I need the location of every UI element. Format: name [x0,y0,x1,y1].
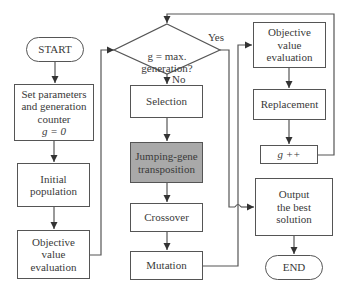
edge-decision-output [220,50,235,207]
replacement-node: Replacement [253,89,326,120]
edge-mutation-objective [203,45,252,266]
jumping-gene-label: Jumping-gene transposition [135,150,197,175]
flowchart: g = max. generation? Yes No START Set pa… [0,0,350,293]
edge-label-yes: Yes [208,31,224,43]
decision-text: g = max. generation? [141,50,192,75]
jumping-gene-node: Jumping-gene transposition [130,142,203,183]
set-parameters-label: Set parameters and generation counter [21,88,86,126]
initial-population-label: Initial population [30,173,77,198]
crossover-label: Crossover [144,211,189,224]
end-label: END [283,261,306,274]
objective-evaluation-initial-label: Objective value evaluation [31,236,77,274]
end-node: END [265,255,323,280]
objective-evaluation-loop-node: Objective value evaluation [253,22,326,68]
mutation-node: Mutation [130,251,203,280]
output-node: Output the best solution [255,178,333,236]
mutation-label: Mutation [146,259,186,272]
set-parameters-node: Set parameters and generation counter g … [14,84,94,141]
crossover-node: Crossover [130,203,203,232]
start-label: START [38,43,71,56]
edge-label-no: No [172,73,185,85]
replacement-label: Replacement [261,98,318,111]
objective-evaluation-initial-node: Objective value evaluation [17,230,90,279]
objective-evaluation-loop-label: Objective value evaluation [267,26,313,64]
decision-label: g = max. generation? [127,37,207,75]
set-parameters-equation: g = 0 [42,125,66,138]
start-node: START [26,37,84,62]
edge-objective-decision [90,50,114,255]
initial-population-node: Initial population [17,163,90,207]
increment-label: g ++ [277,148,300,161]
selection-label: Selection [146,95,187,108]
output-label: Output the best solution [276,188,311,226]
increment-node: g ++ [260,145,318,164]
selection-node: Selection [130,85,203,118]
